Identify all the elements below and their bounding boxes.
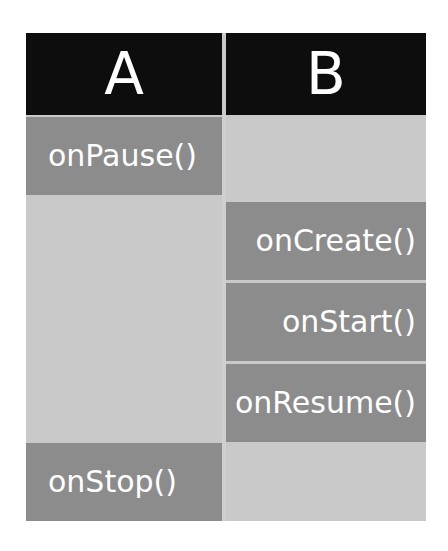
cell-label: onStart()	[282, 307, 416, 337]
cell-b-empty-top	[226, 115, 426, 202]
column-header-a[interactable]: A	[26, 33, 222, 115]
lifecycle-table: A B onPause() onStop() onCreate() onStar…	[26, 33, 426, 521]
cell-a-empty-middle	[26, 195, 222, 443]
cell-label: onStop()	[48, 467, 177, 497]
cell-b-empty-bottom	[226, 442, 426, 521]
cell-on-pause[interactable]: onPause()	[26, 117, 222, 195]
cell-label: onPause()	[48, 141, 197, 171]
column-body-a: onPause() onStop()	[26, 115, 222, 521]
cell-label: onResume()	[235, 388, 416, 418]
cell-label: onCreate()	[256, 226, 416, 256]
column-header-b[interactable]: B	[226, 33, 426, 115]
cell-on-start[interactable]: onStart()	[226, 283, 426, 361]
column-body-b: onCreate() onStart() onResume()	[226, 115, 426, 521]
cell-on-stop[interactable]: onStop()	[26, 443, 222, 521]
table-header-row: A B	[26, 33, 426, 115]
cell-on-resume[interactable]: onResume()	[226, 364, 426, 442]
cell-on-create[interactable]: onCreate()	[226, 202, 426, 280]
